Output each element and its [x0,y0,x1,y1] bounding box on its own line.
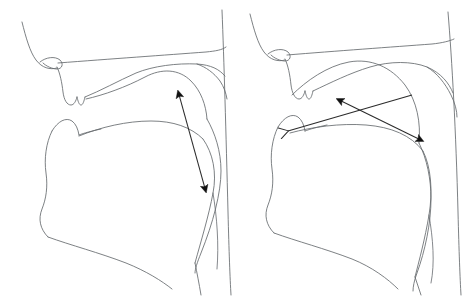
palate-inner-line [85,64,225,97]
vocal-tract-figure-svg [0,0,473,301]
velum-line [197,64,227,99]
jaw-upper-line [278,115,305,131]
chin-outline-line [266,127,278,233]
larynx-front-line [195,263,201,295]
chin-outline-line [40,131,52,237]
larynx-front-line [415,277,421,295]
right-vocal-tract-diagram [250,12,461,295]
upper-tongue-surface-line [292,61,419,143]
upper-lip-notch-line [305,91,313,99]
nose-bridge-line [250,14,285,61]
nose-bridge-line [22,22,57,69]
figure-root [0,0,473,301]
pharynx-back-wall-line [222,10,231,295]
tongue-body-raising-arrow [340,100,421,139]
hard-palate-line [58,47,226,63]
jaw-upper-line [52,119,79,135]
left-arrow-group [179,94,205,189]
upper-lip-notch-line [77,97,85,105]
hard-palate-line [287,39,454,55]
right-head-outline [250,12,461,295]
left-vocal-tract-diagram [22,10,231,295]
upper-lip-line [57,67,77,105]
larynx-back-line [429,215,433,283]
upper-tongue-surface-line [86,71,207,119]
tongue-front-line [290,124,423,151]
jaw-lower-line [274,233,398,289]
pharynx-back-wall-line [448,12,461,295]
left-head-outline [22,10,231,295]
tongue-body-movement-arrow [179,94,205,189]
tongue-fronting-arrow [288,95,412,131]
jaw-lower-line [48,237,172,289]
upper-lip-line [285,59,305,99]
